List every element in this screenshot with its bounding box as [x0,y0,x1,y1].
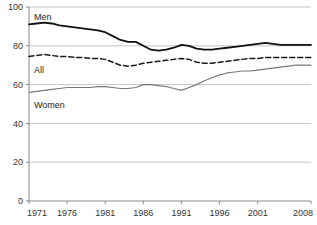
series-lines [29,23,311,93]
series-label-women: Women [34,100,65,110]
series-label-men: Men [34,12,52,22]
x-tick-label-1996: 1996 [210,208,230,218]
y-tick-label-40: 40 [13,119,23,129]
series-line-women [29,65,311,92]
y-axis-tick-labels: 020406080100 [8,2,29,206]
x-tick-label-1971: 1971 [27,208,47,218]
x-axis-tick-labels: 19711976198119861991199620012008 [27,201,313,218]
series-label-all: All [34,65,44,75]
series-inline-labels: MenAllWomen [34,12,65,110]
series-line-all [29,55,311,67]
chart-container: 020406080100 197119761981198619911996200… [0,0,317,225]
y-tick-label-80: 80 [13,41,23,51]
line-chart: 020406080100 197119761981198619911996200… [0,0,317,225]
y-tick-label-20: 20 [13,157,23,167]
y-tick-label-0: 0 [18,196,23,206]
x-tick-label-2001: 2001 [248,208,268,218]
x-tick-label-1991: 1991 [171,208,191,218]
y-tick-label-100: 100 [8,2,23,12]
x-tick-label-2008: 2008 [293,208,313,218]
series-line-men [29,23,311,51]
x-tick-label-1976: 1976 [57,208,77,218]
x-tick-label-1986: 1986 [133,208,153,218]
y-tick-label-60: 60 [13,80,23,90]
x-tick-label-1981: 1981 [95,208,115,218]
gridlines [29,7,311,162]
